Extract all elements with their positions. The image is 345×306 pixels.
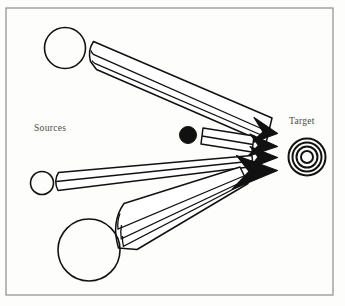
sources-label: Sources	[34, 123, 66, 133]
source-dot-filled	[180, 127, 197, 144]
target-label: Target	[289, 116, 315, 126]
figure-canvas: Sources Target	[0, 0, 345, 306]
figure-root: Sources Target	[0, 0, 345, 306]
